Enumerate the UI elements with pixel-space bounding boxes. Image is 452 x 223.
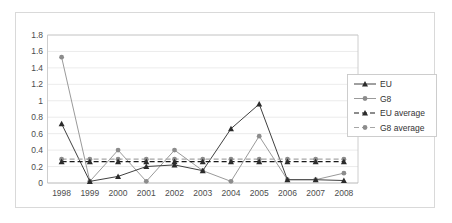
legend-item-label: EU average bbox=[380, 108, 425, 118]
legend-item-label: G8 bbox=[380, 94, 392, 104]
y-tick-label: 1.6 bbox=[31, 46, 43, 56]
x-tick-label: 2007 bbox=[306, 188, 325, 198]
y-tick-label: 0.2 bbox=[31, 162, 43, 172]
y-tick-label: 0 bbox=[38, 178, 43, 188]
x-tick-label: 2004 bbox=[222, 188, 241, 198]
series-marker-eu bbox=[256, 101, 262, 107]
x-tick-label: 2001 bbox=[137, 188, 156, 198]
series-marker-g8 bbox=[144, 179, 149, 184]
y-tick-label: 0.4 bbox=[31, 145, 43, 155]
x-tick-label: 2000 bbox=[109, 188, 128, 198]
line-chart: 1.81.61.41.210.80.60.40.20 1998199920002… bbox=[0, 0, 452, 223]
y-tick-label: 1.8 bbox=[31, 30, 43, 40]
x-tick-label: 2006 bbox=[278, 188, 297, 198]
y-tick-label: 0.6 bbox=[31, 129, 43, 139]
x-tick-label: 1999 bbox=[80, 188, 99, 198]
x-tick-label: 2003 bbox=[193, 188, 212, 198]
x-tick-label: 2008 bbox=[334, 188, 353, 198]
x-tick-label: 2002 bbox=[165, 188, 184, 198]
y-tick-label: 1.2 bbox=[31, 79, 43, 89]
y-tick-label: 0.8 bbox=[31, 112, 43, 122]
data-series-group bbox=[59, 55, 347, 184]
y-tick-label: 1 bbox=[38, 96, 43, 106]
series-marker-g8 bbox=[172, 148, 177, 153]
x-tick-label: 1998 bbox=[52, 188, 71, 198]
series-marker-g8 bbox=[229, 179, 234, 184]
series-marker-g8 bbox=[59, 55, 64, 60]
y-tick-label: 1.4 bbox=[31, 63, 43, 73]
legend-swatch-marker bbox=[363, 125, 368, 130]
series-marker-eu bbox=[59, 121, 65, 127]
gridlines-group bbox=[48, 35, 359, 167]
legend-item-label: EU bbox=[380, 79, 392, 89]
series-marker-g8 bbox=[341, 171, 346, 176]
legend-item-label: G8 average bbox=[380, 123, 425, 133]
y-axis-tick-labels: 1.81.61.41.210.80.60.40.20 bbox=[31, 30, 43, 188]
legend-swatch-marker bbox=[363, 96, 368, 101]
series-marker-g8 bbox=[257, 134, 262, 139]
chart-legend: EUG8EU averageG8 average bbox=[348, 75, 437, 137]
series-marker-g8 bbox=[116, 148, 121, 153]
x-axis-tick-labels: 1998199920002001200220032004200520062007… bbox=[52, 188, 353, 198]
x-tick-label: 2005 bbox=[250, 188, 269, 198]
